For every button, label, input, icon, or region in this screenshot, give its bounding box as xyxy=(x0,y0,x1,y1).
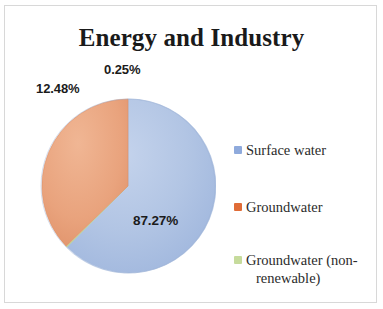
legend-item-groundwater[interactable]: Groundwater xyxy=(234,198,374,216)
data-label-surface-water: 87.27% xyxy=(133,213,178,228)
legend-item-surface-water[interactable]: Surface water xyxy=(234,141,374,159)
chart-canvas: Energy and Industry xyxy=(0,0,383,309)
legend-label-surface-water: Surface water xyxy=(246,141,370,159)
data-label-groundwater-nonrenewable: 0.25% xyxy=(104,62,140,77)
legend-swatch-groundwater-nonrenewable-icon xyxy=(234,256,242,264)
legend-swatch-surface-water-icon xyxy=(234,146,242,154)
legend-label-line-1: Groundwater (non- xyxy=(246,252,358,268)
data-label-groundwater: 12.48% xyxy=(36,81,80,96)
legend-swatch-groundwater-icon xyxy=(234,203,242,211)
pie-svg xyxy=(40,98,216,274)
pie-chart xyxy=(40,98,216,274)
legend-label-groundwater: Groundwater xyxy=(246,198,370,216)
legend-item-groundwater-nonrenewable[interactable]: Groundwater (non-renewable) xyxy=(234,251,374,287)
legend-label-line-2: renewable) xyxy=(246,269,370,287)
chart-title: Energy and Industry xyxy=(0,24,383,52)
legend-label-groundwater-nonrenewable: Groundwater (non-renewable) xyxy=(246,251,370,287)
